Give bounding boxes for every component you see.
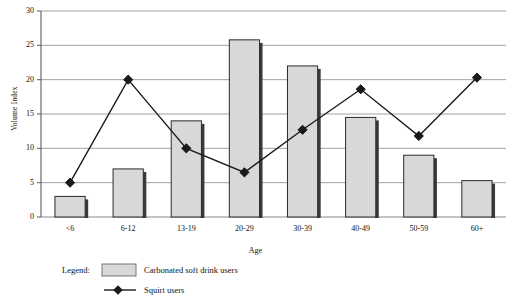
- y-tick-label: 0: [12, 213, 34, 221]
- x-tick-label: 6-12: [98, 224, 158, 233]
- x-tick-label: 50-59: [389, 224, 449, 233]
- x-tick-label: 60+: [447, 224, 507, 233]
- axes: [37, 11, 41, 217]
- bar: [404, 155, 434, 217]
- y-tick-label: 25: [12, 41, 34, 49]
- bar: [229, 40, 259, 217]
- legend-entry-label-0: Carbonated soft drink users: [144, 265, 238, 275]
- x-tick-label: 13-19: [156, 224, 216, 233]
- chart-figure: Volume Index Age 051015202530 <66-1213-1…: [0, 0, 511, 305]
- bar: [346, 117, 376, 217]
- y-tick-label: 5: [12, 179, 34, 187]
- bar: [287, 66, 317, 217]
- x-tick-label: <6: [40, 224, 100, 233]
- bar: [462, 181, 492, 217]
- chart-canvas: [0, 0, 511, 305]
- legend-entry-label-1: Squirt users: [144, 285, 184, 295]
- y-tick-label: 20: [12, 76, 34, 84]
- x-tick-label: 30-39: [273, 224, 333, 233]
- diamond-marker-icon: [113, 285, 123, 295]
- bar: [113, 169, 143, 217]
- x-tick-label: 20-29: [214, 224, 274, 233]
- bar-swatch-icon: [102, 264, 136, 276]
- bar: [55, 196, 85, 217]
- bar-series: [55, 40, 495, 218]
- legend-title: Legend:: [62, 265, 90, 275]
- y-tick-label: 30: [12, 7, 34, 15]
- legend: [102, 264, 136, 295]
- y-tick-label: 10: [12, 144, 34, 152]
- data-point-marker: [65, 178, 74, 187]
- y-tick-label: 15: [12, 110, 34, 118]
- x-tick-label: 40-49: [331, 224, 391, 233]
